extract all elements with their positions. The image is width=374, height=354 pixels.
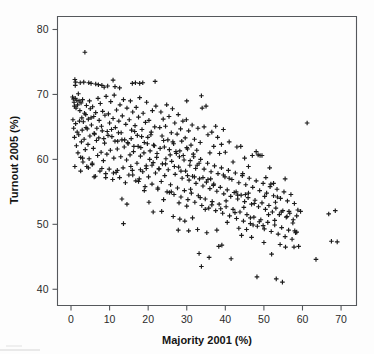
data-point bbox=[255, 224, 260, 229]
data-point bbox=[121, 221, 126, 226]
data-point bbox=[209, 169, 214, 174]
data-point bbox=[237, 180, 242, 185]
data-point bbox=[143, 184, 148, 189]
data-point bbox=[162, 173, 167, 178]
data-point bbox=[229, 256, 234, 261]
data-point bbox=[144, 100, 149, 105]
data-point bbox=[163, 162, 168, 167]
data-point bbox=[231, 160, 236, 165]
data-point bbox=[151, 210, 156, 215]
data-point bbox=[117, 175, 122, 180]
data-point bbox=[249, 235, 254, 240]
data-point bbox=[190, 123, 195, 128]
data-point bbox=[234, 216, 239, 221]
x-axis-title: Majority 2001 (%) bbox=[162, 334, 252, 346]
data-point bbox=[279, 225, 284, 230]
data-point bbox=[147, 157, 152, 162]
data-point bbox=[136, 115, 141, 120]
scatter-plot: 010203040506070 4050607080 Majority 2001… bbox=[0, 0, 374, 354]
data-point bbox=[172, 164, 177, 169]
data-point bbox=[95, 153, 100, 158]
data-point bbox=[125, 106, 130, 111]
data-point bbox=[89, 123, 94, 128]
data-point bbox=[107, 167, 112, 172]
data-point bbox=[175, 186, 180, 191]
data-point bbox=[87, 99, 92, 104]
data-point bbox=[249, 202, 254, 207]
data-point bbox=[215, 228, 220, 233]
data-point bbox=[124, 158, 129, 163]
data-point bbox=[335, 240, 340, 245]
data-point bbox=[194, 148, 199, 153]
data-point bbox=[133, 80, 138, 85]
data-point bbox=[142, 151, 147, 156]
data-point bbox=[102, 141, 107, 146]
data-point bbox=[171, 214, 176, 219]
figure-panel: 010203040506070 4050607080 Majority 2001… bbox=[0, 0, 374, 354]
data-point bbox=[285, 199, 290, 204]
data-point bbox=[208, 186, 213, 191]
data-point bbox=[110, 177, 115, 182]
x-tick-label: 50 bbox=[258, 313, 270, 325]
data-point bbox=[167, 114, 172, 119]
y-tick-label: 80 bbox=[37, 23, 49, 35]
data-point bbox=[125, 202, 130, 207]
data-point bbox=[186, 129, 191, 134]
data-point bbox=[161, 117, 166, 122]
data-point bbox=[123, 180, 128, 185]
data-point bbox=[173, 172, 178, 177]
data-point bbox=[210, 203, 215, 208]
data-point bbox=[115, 147, 120, 152]
data-point bbox=[169, 159, 174, 164]
data-point bbox=[145, 135, 150, 140]
data-point bbox=[172, 121, 177, 126]
data-point bbox=[170, 106, 175, 111]
data-point bbox=[215, 189, 220, 194]
data-point bbox=[201, 184, 206, 189]
data-point bbox=[253, 198, 258, 203]
data-point bbox=[108, 99, 113, 104]
data-point bbox=[188, 163, 193, 168]
data-point bbox=[76, 151, 81, 156]
data-point bbox=[176, 165, 181, 170]
data-point bbox=[116, 130, 121, 135]
data-point bbox=[83, 50, 88, 55]
data-point bbox=[283, 177, 288, 182]
data-point bbox=[195, 227, 200, 232]
data-point bbox=[178, 217, 183, 222]
data-point bbox=[257, 188, 262, 193]
data-point bbox=[158, 146, 163, 151]
data-point bbox=[154, 104, 159, 109]
data-point bbox=[274, 206, 279, 211]
data-point bbox=[273, 200, 278, 205]
data-point bbox=[280, 280, 285, 285]
data-point bbox=[220, 211, 225, 216]
data-point bbox=[120, 138, 125, 143]
data-point bbox=[168, 153, 173, 158]
data-point bbox=[208, 151, 213, 156]
data-point bbox=[296, 244, 301, 249]
data-point bbox=[137, 95, 142, 100]
data-point bbox=[161, 197, 166, 202]
data-point bbox=[152, 143, 157, 148]
data-point bbox=[176, 112, 181, 117]
x-tick-label: 40 bbox=[219, 313, 231, 325]
data-point bbox=[151, 143, 156, 148]
data-point bbox=[272, 218, 277, 223]
data-point bbox=[186, 229, 191, 234]
data-point bbox=[160, 134, 165, 139]
data-point bbox=[73, 121, 78, 126]
data-point bbox=[219, 166, 224, 171]
data-point bbox=[183, 169, 188, 174]
data-point bbox=[271, 181, 276, 186]
data-point bbox=[92, 131, 97, 136]
data-point bbox=[189, 191, 194, 196]
data-point bbox=[73, 83, 78, 88]
data-point bbox=[203, 197, 208, 202]
data-point bbox=[104, 94, 109, 99]
data-point bbox=[252, 201, 257, 206]
data-point bbox=[233, 171, 238, 176]
data-point bbox=[78, 169, 83, 174]
data-point bbox=[80, 128, 85, 133]
data-point bbox=[135, 133, 140, 138]
